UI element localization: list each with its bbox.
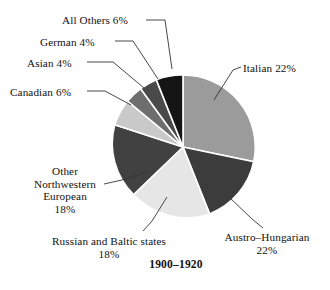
leader-line-german	[115, 41, 158, 79]
slice-label-italian: Italian 22%	[243, 62, 296, 75]
chart-title: 1900–1920	[128, 258, 224, 270]
slice-label-austro-hungarian: Austro–Hungarian 22%	[221, 231, 313, 256]
slice-label-all-others: All Others 6%	[62, 14, 128, 27]
slice-label-other-northwestern-european: Other Northwestern European 18%	[27, 165, 103, 215]
slice-label-canadian: Canadian 6%	[10, 86, 71, 99]
pie-chart-figure: All Others 6% German 4% Asian 4% Canadia…	[0, 0, 330, 290]
leader-line-canadian	[87, 91, 131, 105]
slice-label-russian-baltic-line1: Russian and Baltic states	[33, 235, 185, 248]
slice-label-austro-hungarian-line2: 22%	[221, 244, 313, 257]
slice-label-russian-baltic: Russian and Baltic states 18%	[33, 235, 185, 260]
slice-label-asian: Asian 4%	[27, 57, 72, 70]
leader-line-austro-hungarian	[228, 196, 263, 228]
slice-label-german: German 4%	[40, 36, 95, 49]
slice-label-austro-hungarian-line1: Austro–Hungarian	[221, 231, 313, 244]
leader-line-all-others	[146, 20, 172, 69]
leader-line-asian	[87, 62, 144, 88]
slice-label-other-nw-line2: Northwestern	[27, 178, 103, 191]
slice-label-other-nw-line3: European	[27, 190, 103, 203]
slice-label-other-nw-line4: 18%	[27, 203, 103, 216]
slice-label-other-nw-line1: Other	[27, 165, 103, 178]
